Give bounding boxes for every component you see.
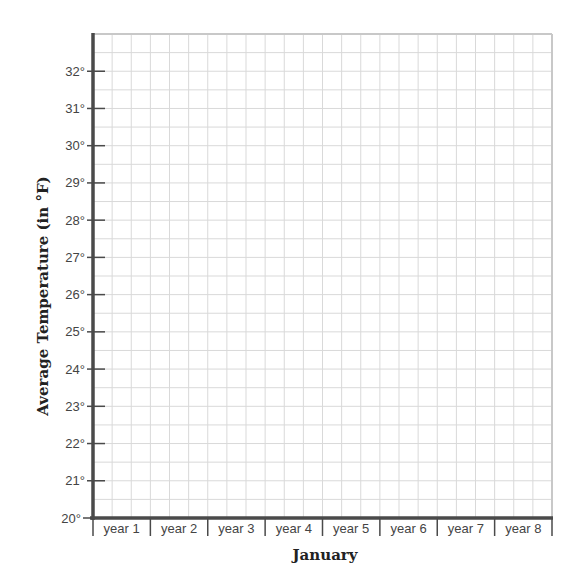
y-tick-label: 27°: [65, 250, 85, 265]
y-tick-label: 32°: [65, 64, 85, 79]
y-tick-label: 20°: [61, 511, 81, 526]
y-tick-label: 26°: [65, 287, 85, 302]
y-tick-label: 31°: [65, 101, 85, 116]
x-category-label: year 2: [161, 521, 197, 536]
x-category-label: year 5: [333, 521, 369, 536]
temperature-chart: 20°21°22°23°24°25°26°27°28°29°30°31°32° …: [0, 0, 587, 587]
y-tick-label: 23°: [65, 399, 85, 414]
y-axis-title: Average Temperature (in °F): [34, 176, 52, 416]
y-tick-label: 29°: [65, 175, 85, 190]
y-tick-label: 30°: [65, 138, 85, 153]
x-category-label: year 1: [104, 521, 140, 536]
y-tick-label: 28°: [65, 213, 85, 228]
x-category-label: year 3: [218, 521, 254, 536]
y-axis-ticks: 20°21°22°23°24°25°26°27°28°29°30°31°32°: [61, 64, 105, 526]
y-tick-label: 22°: [65, 436, 85, 451]
y-tick-label: 25°: [65, 324, 85, 339]
x-axis-title: January: [291, 546, 359, 564]
x-category-label: year 4: [276, 521, 312, 536]
grid: [93, 34, 552, 518]
y-tick-label: 21°: [65, 473, 85, 488]
x-category-label: year 6: [390, 521, 426, 536]
x-category-label: year 7: [448, 521, 484, 536]
x-axis-categories: year 1year 2year 3year 4year 5year 6year…: [93, 518, 552, 536]
y-tick-label: 24°: [65, 362, 85, 377]
x-category-label: year 8: [505, 521, 541, 536]
